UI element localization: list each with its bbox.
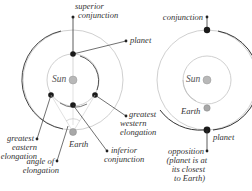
label-opposition-4: to Earth) (150, 174, 205, 183)
earth-right (204, 105, 210, 111)
planet-orbit-arc-right (213, 31, 252, 130)
label-conjunction-right: conjunction (140, 13, 203, 22)
label-planet-left: planet (130, 36, 151, 45)
label-sun-right: Sun (186, 75, 200, 84)
planet-orbit-arc-left (80, 56, 99, 90)
label-greatest-western-3: elongation (120, 128, 156, 137)
label-elongation: elongation (0, 166, 59, 175)
sun-right (203, 76, 211, 84)
earth-left (70, 129, 77, 136)
planetary-configurations-diagram: superior conjunction planet Sun greatest… (0, 0, 252, 191)
label-earth-left: Earth (69, 140, 88, 149)
sun-left (69, 76, 77, 84)
label-inferior-conjunction: conjunction (104, 155, 144, 164)
label-planet-right: planet (213, 133, 234, 142)
label-earth-right: Earth (181, 107, 200, 116)
label-sun-left: Sun (52, 75, 66, 84)
label-superior-conjunction: conjunction (78, 11, 118, 20)
